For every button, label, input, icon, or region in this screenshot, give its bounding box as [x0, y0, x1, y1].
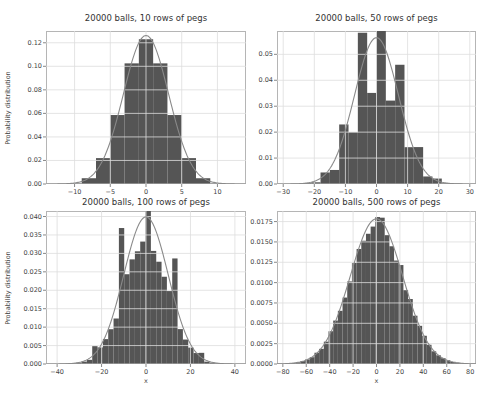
- y-tick-label: 0.10: [28, 62, 42, 70]
- y-tick-label: 0.0050: [250, 319, 273, 327]
- histogram-bar: [183, 340, 188, 364]
- histogram-bar: [162, 277, 167, 364]
- histogram-bar: [167, 115, 181, 184]
- histogram-bar: [172, 258, 177, 364]
- histogram-bar: [167, 291, 172, 364]
- histogram-bar: [96, 158, 110, 184]
- x-axis-label: x: [375, 377, 379, 385]
- histogram-bar: [119, 228, 124, 364]
- histogram-bar: [135, 251, 140, 364]
- histogram-bar: [324, 342, 329, 364]
- histogram-bar: [361, 241, 366, 364]
- x-tick-label: 80: [466, 368, 474, 376]
- x-tick-label: 30: [466, 188, 474, 196]
- histogram-bar: [395, 65, 404, 184]
- histogram-bar: [188, 348, 193, 364]
- x-tick-label: −40: [50, 368, 64, 376]
- plot-area: [46, 211, 246, 364]
- x-tick-label: −30: [276, 188, 290, 196]
- histogram-bar: [156, 262, 161, 364]
- plot-area: [46, 31, 246, 184]
- plot-area: [277, 31, 476, 184]
- y-tick-label: 0.03: [259, 102, 273, 110]
- y-tick-label: 0.04: [28, 133, 42, 141]
- x-tick-label: 0: [374, 188, 378, 196]
- y-tick-label: 0.0025: [250, 340, 273, 348]
- histogram-bar: [130, 259, 135, 364]
- x-tick-label: 40: [419, 368, 427, 376]
- x-tick-label: −40: [323, 368, 337, 376]
- histogram-bar: [385, 235, 390, 364]
- histogram-bar: [386, 101, 395, 184]
- x-tick-label: 20: [186, 368, 194, 376]
- histogram-bar: [110, 115, 124, 184]
- histogram-bar: [124, 274, 129, 364]
- grid: [46, 211, 246, 364]
- x-tick-label: −10: [68, 188, 82, 196]
- histogram-bar: [338, 311, 343, 364]
- y-tick-label: 0.000: [23, 360, 42, 368]
- x-tick-label: 0: [144, 368, 148, 376]
- x-tick-label: 5: [180, 188, 184, 196]
- histogram-bar: [357, 249, 362, 364]
- histogram-bar: [366, 234, 371, 364]
- y-tick-label: 0.0075: [250, 299, 273, 307]
- histogram-bar: [151, 251, 156, 364]
- x-tick-label: −5: [105, 188, 115, 196]
- histogram-bar: [178, 329, 183, 364]
- histogram-bar: [404, 147, 413, 184]
- grid: [277, 211, 476, 364]
- histogram-bar: [352, 263, 357, 364]
- y-tick-label: 0.040: [23, 213, 42, 221]
- y-tick-label: 0.00: [28, 180, 42, 188]
- plot-title: 20000 balls, 50 rows of pegs: [315, 13, 437, 23]
- histogram-bar: [87, 360, 92, 364]
- x-tick-label: 20: [396, 368, 404, 376]
- y-tick-label: 0.005: [23, 342, 42, 350]
- x-tick-label: 0: [374, 368, 378, 376]
- plot-area: [277, 211, 476, 364]
- x-tick-label: −80: [276, 368, 290, 376]
- y-tick-label: 0.0175: [250, 218, 273, 226]
- y-tick-label: 0.00: [259, 180, 273, 188]
- x-tick-label: 40: [231, 368, 239, 376]
- y-tick-label: 0.020: [23, 286, 42, 294]
- y-axis-label: Probability distribution: [4, 71, 12, 144]
- y-tick-label: 0.01: [259, 154, 273, 162]
- histogram-bar: [389, 246, 394, 364]
- histogram-bar: [108, 329, 113, 364]
- x-tick-label: 0: [144, 188, 148, 196]
- x-tick-label: 60: [443, 368, 451, 376]
- histogram-bar: [182, 158, 196, 184]
- x-axis-label: x: [144, 377, 148, 385]
- histogram-bar: [339, 124, 348, 184]
- x-tick-label: −20: [95, 368, 109, 376]
- y-tick-label: 0.02: [28, 156, 42, 164]
- y-tick-label: 0.08: [28, 86, 42, 94]
- y-tick-label: 0.02: [259, 128, 273, 136]
- y-tick-label: 0.0125: [250, 258, 273, 266]
- histogram-bar: [319, 349, 324, 364]
- histogram-bar: [375, 217, 380, 364]
- y-tick-label: 0.06: [28, 109, 42, 117]
- x-tick-label: −10: [339, 188, 353, 196]
- plot-title: 20000 balls, 500 rows of pegs: [313, 197, 441, 207]
- y-tick-label: 0.05: [259, 50, 273, 58]
- histogram-bar: [333, 321, 338, 364]
- y-tick-label: 0.0000: [250, 360, 273, 368]
- histogram-bar: [114, 319, 119, 364]
- histogram-bar: [403, 290, 408, 364]
- x-tick-label: 20: [435, 188, 443, 196]
- histogram-bars: [277, 217, 478, 364]
- histogram-bar: [103, 339, 108, 364]
- y-tick-label: 0.12: [28, 39, 42, 47]
- histogram-bar: [394, 261, 399, 364]
- y-axis-label: Probability distribution: [4, 251, 12, 324]
- grid: [277, 31, 476, 184]
- histogram-bar: [408, 299, 413, 364]
- histogram-bar: [380, 218, 385, 364]
- y-tick-label: 0.025: [23, 268, 42, 276]
- plot-title: 20000 balls, 10 rows of pegs: [85, 13, 207, 23]
- y-tick-label: 0.0150: [250, 238, 273, 246]
- y-tick-label: 0.04: [259, 76, 273, 84]
